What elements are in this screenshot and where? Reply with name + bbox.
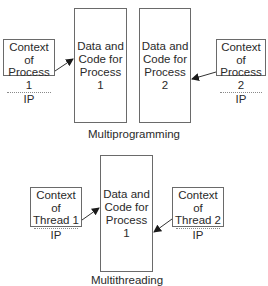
instruction-pointer-register: IP xyxy=(4,93,54,106)
instruction-pointer-register: IP xyxy=(217,93,265,106)
memory-line-1: Data and xyxy=(77,40,124,53)
context-owner: Process 1 xyxy=(4,66,54,91)
shared-process-memory-box: Data and Code for Process 1 xyxy=(100,155,153,272)
thread-1-context-box: Context of Thread 1 IP xyxy=(30,187,82,227)
memory-line-3: Process 1 xyxy=(101,214,152,240)
process-2-ip-arrow xyxy=(192,72,216,79)
context-title: Context of xyxy=(173,188,223,214)
context-title: Context of xyxy=(217,40,265,66)
memory-line-1: Data and xyxy=(103,188,150,201)
memory-line-2: Code for xyxy=(143,53,187,66)
memory-line-3: Process 1 xyxy=(75,66,126,92)
process-1-context-box: Context of Process 1 IP xyxy=(3,39,55,76)
context-owner: Process 2 xyxy=(217,66,265,91)
thread-2-ip-arrow xyxy=(154,219,172,232)
thread-1-ip-arrow xyxy=(82,208,99,220)
context-owner: Thread 1 xyxy=(31,214,81,227)
process-1-ip-arrow xyxy=(55,59,73,71)
process-2-memory-box: Data and Code for Process 2 xyxy=(139,8,191,123)
thread-2-context-box: Context of Thread 2 IP xyxy=(172,187,224,227)
context-title: Context of xyxy=(4,40,54,66)
instruction-pointer-register: IP xyxy=(173,229,223,242)
multithreading-caption: Multithreading xyxy=(77,274,177,286)
memory-line-1: Data and xyxy=(142,40,189,53)
context-title: Context of xyxy=(31,188,81,214)
context-owner: Thread 2 xyxy=(173,214,223,227)
memory-line-2: Code for xyxy=(104,201,148,214)
process-1-memory-box: Data and Code for Process 1 xyxy=(74,8,127,123)
memory-line-2: Code for xyxy=(78,53,122,66)
memory-line-3: Process 2 xyxy=(140,66,190,92)
multiprogramming-caption: Multiprogramming xyxy=(84,128,184,140)
process-2-context-box: Context of Process 2 IP xyxy=(216,39,266,76)
instruction-pointer-register: IP xyxy=(31,229,81,242)
